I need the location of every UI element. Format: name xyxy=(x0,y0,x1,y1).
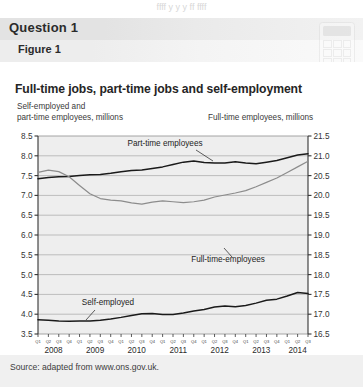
y-tick-right: 20.5 xyxy=(314,172,330,181)
question-title: Question 1 xyxy=(9,20,78,35)
y-tick-left: 5.0 xyxy=(21,271,33,280)
x-tick-quarter: Q4 xyxy=(233,339,239,344)
x-tick-quarter: Q2 xyxy=(46,339,52,344)
x-tick-year: 2010 xyxy=(128,346,147,355)
y-tick-right: 21.5 xyxy=(314,132,330,141)
x-tick-quarter: Q1 xyxy=(118,339,124,344)
y-tick-left: 8.0 xyxy=(21,152,33,161)
x-tick-year: 2009 xyxy=(86,346,105,355)
x-tick-quarter: Q1 xyxy=(201,339,207,344)
x-tick-quarter: Q4 xyxy=(274,339,280,344)
figure-card: Full-time jobs, part-time jobs and self-… xyxy=(0,62,363,355)
x-tick-quarter: Q1 xyxy=(77,339,83,344)
y-tick-right: 19.0 xyxy=(314,231,330,240)
source-note: Source: adapted from www.ons.gov.uk. xyxy=(10,362,159,372)
x-tick-quarter: Q2 xyxy=(129,339,135,344)
series-annotation-full-time-employees: Full-time-employees xyxy=(191,255,265,264)
x-tick-quarter: Q3 xyxy=(139,339,145,344)
y-tick-left: 4.5 xyxy=(21,290,33,299)
y-tick-right: 17.5 xyxy=(314,290,330,299)
x-tick-year: 2012 xyxy=(211,346,230,355)
y-tick-right: 19.5 xyxy=(314,211,330,220)
page-bleed-text: ffff y y y ff ffff xyxy=(0,0,363,14)
figure-title: Figure 1 xyxy=(18,43,61,55)
x-tick-quarter: Q3 xyxy=(222,339,228,344)
x-tick-quarter: Q3 xyxy=(264,339,270,344)
x-tick-quarter: Q1 xyxy=(284,339,290,344)
y-tick-left: 6.0 xyxy=(21,231,33,240)
y-tick-left: 5.5 xyxy=(21,251,33,260)
x-tick-quarter: Q3 xyxy=(181,339,187,344)
x-tick-quarter: Q3 xyxy=(98,339,104,344)
x-tick-quarter: Q2 xyxy=(87,339,93,344)
x-tick-quarter: Q4 xyxy=(108,339,114,344)
x-tick-quarter: Q1 xyxy=(243,339,249,344)
series-annotation-self-employed: Self-employed xyxy=(82,298,135,307)
y-tick-right: 18.0 xyxy=(314,271,330,280)
x-tick-year: 2011 xyxy=(169,346,187,355)
y-tick-left: 7.0 xyxy=(21,191,33,200)
x-tick-quarter: Q4 xyxy=(66,339,72,344)
y-tick-left: 3.5 xyxy=(21,330,33,339)
y-tick-left: 4.0 xyxy=(21,310,33,319)
x-tick-quarter: Q2 xyxy=(170,339,176,344)
x-tick-quarter: Q3 xyxy=(305,339,311,344)
page-root: ffff y y y ff ffff Question 1 Figure 1 F… xyxy=(0,0,363,387)
x-tick-quarter: Q2 xyxy=(212,339,218,344)
chart-svg: 8.521.58.021.07.520.57.020.06.519.56.019… xyxy=(0,62,363,355)
y-tick-left: 8.5 xyxy=(21,132,33,141)
x-tick-quarter: Q2 xyxy=(253,339,259,344)
y-tick-right: 17.0 xyxy=(314,310,330,319)
y-tick-right: 16.5 xyxy=(314,330,330,339)
x-tick-quarter: Q4 xyxy=(149,339,155,344)
x-tick-quarter: Q3 xyxy=(56,339,62,344)
y-tick-left: 6.5 xyxy=(21,211,33,220)
series-annotation-part-time-employees: Part-time employees xyxy=(127,139,202,148)
x-tick-quarter: Q2 xyxy=(295,339,301,344)
x-tick-year: 2014 xyxy=(289,346,308,355)
x-tick-quarter: Q1 xyxy=(160,339,166,344)
x-tick-year: 2008 xyxy=(44,346,63,355)
x-tick-quarter: Q4 xyxy=(191,339,197,344)
y-tick-right: 20.0 xyxy=(314,191,330,200)
y-tick-right: 21.0 xyxy=(314,152,330,161)
chart-plot-area: 8.521.58.021.07.520.57.020.06.519.56.019… xyxy=(0,62,363,355)
y-tick-left: 7.5 xyxy=(21,172,33,181)
x-tick-year: 2013 xyxy=(252,346,271,355)
x-tick-quarter: Q1 xyxy=(35,339,41,344)
y-tick-right: 18.5 xyxy=(314,251,330,260)
